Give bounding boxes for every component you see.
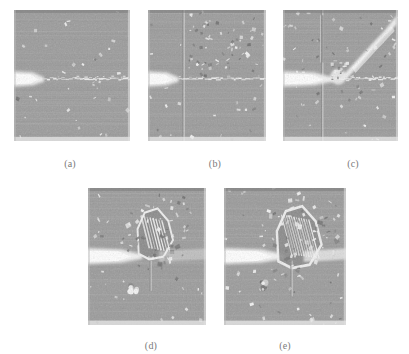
micrograph-image-e [224, 188, 346, 325]
micrograph-panel-b [148, 10, 266, 141]
panel-caption-e: (e) [267, 340, 303, 351]
micrograph-panel-d [88, 188, 206, 325]
micrograph-image-b [148, 10, 266, 141]
micrograph-image-c [283, 10, 398, 141]
micrograph-panel-e [224, 188, 346, 325]
panel-caption-a: (a) [52, 158, 88, 169]
panel-caption-c: (c) [335, 158, 371, 169]
panel-caption-d: (d) [133, 340, 169, 351]
figure-container: (a)(b)(c)(d)(e) [0, 0, 409, 354]
micrograph-image-a [14, 10, 130, 141]
panel-caption-b: (b) [197, 158, 233, 169]
micrograph-image-d [88, 188, 206, 325]
micrograph-panel-c [283, 10, 398, 141]
micrograph-panel-a [14, 10, 130, 141]
